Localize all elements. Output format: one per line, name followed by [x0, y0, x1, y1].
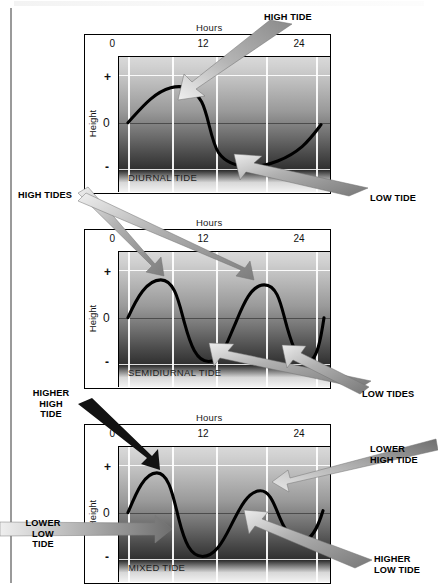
left-margin-rule: [10, 8, 12, 583]
figure-root: 0 12 24 + 0 - Height DIURNAL TIDE Hours: [0, 0, 438, 585]
y-zero-symbol: 0: [103, 116, 110, 130]
callout-higher-high-tide: HIGHER HIGH TIDE: [22, 388, 80, 420]
callout-higher-low-tide: HIGHER LOW TIDE: [374, 554, 420, 575]
axis-row: 0 12 24: [85, 230, 329, 249]
y-minus-symbol: -: [105, 160, 109, 174]
xtick-0: 0: [109, 38, 115, 49]
xtick-12: 12: [197, 428, 208, 439]
panel-diurnal: 0 12 24 + 0 - Height DIURNAL TIDE: [84, 34, 331, 194]
panel-mixed: 0 12 24 + 0 - Height MIXED TIDE: [84, 424, 331, 584]
y-zero-symbol: 0: [103, 506, 110, 520]
axis-row: 0 12 24: [85, 35, 329, 54]
xtick-24: 24: [293, 233, 304, 244]
callout-low-tide: LOW TIDE: [370, 193, 416, 204]
y-axis-title: Height: [87, 494, 98, 534]
y-zero-symbol: 0: [103, 311, 110, 325]
xtick-0: 0: [109, 428, 115, 439]
panel-title-mixed: MIXED TIDE: [128, 562, 185, 573]
y-axis-title: Height: [87, 299, 98, 339]
panel-semidiurnal: 0 12 24 + 0 - Height SEMIDIURNAL TIDE: [84, 229, 331, 389]
xtick-12: 12: [197, 233, 208, 244]
y-axis-title: Height: [87, 104, 98, 144]
cropped-header-strip: [14, 1, 424, 6]
callout-high-tide: HIGH TIDE: [264, 12, 312, 23]
callout-high-tides: HIGH TIDES: [18, 190, 72, 201]
axis-row: 0 12 24: [85, 425, 329, 444]
y-plus-symbol: +: [104, 460, 111, 474]
y-minus-symbol: -: [105, 550, 109, 564]
callout-lower-low-tide: LOWER LOW TIDE: [14, 518, 72, 550]
xtick-0: 0: [109, 233, 115, 244]
y-plus-symbol: +: [104, 70, 111, 84]
callout-low-tides: LOW TIDES: [362, 389, 414, 400]
x-axis-title-2: Hours: [196, 217, 222, 228]
callout-lower-high-tide: LOWER HIGH TIDE: [370, 444, 418, 465]
xtick-24: 24: [293, 38, 304, 49]
x-axis-title-1: Hours: [196, 22, 222, 33]
xtick-12: 12: [197, 38, 208, 49]
y-plus-symbol: +: [104, 265, 111, 279]
panel-title-diurnal: DIURNAL TIDE: [128, 172, 197, 183]
x-axis-title-3: Hours: [196, 412, 222, 423]
panel-title-semidiurnal: SEMIDIURNAL TIDE: [128, 367, 221, 378]
xtick-24: 24: [293, 428, 304, 439]
y-minus-symbol: -: [105, 355, 109, 369]
